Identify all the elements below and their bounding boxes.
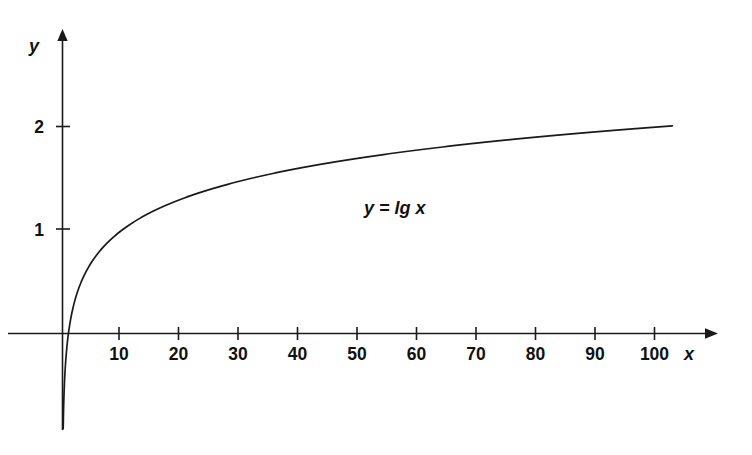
- x-axis-label: x: [683, 344, 695, 364]
- x-tick-label-100: 100: [640, 344, 669, 364]
- y-tick-label-2: 2: [34, 117, 44, 137]
- x-tick-label-90: 90: [585, 344, 605, 364]
- logarithm-graph: 10 20 30 40 50 60 70 80 90 100 1 2 y x y…: [0, 0, 752, 455]
- log-curve: [63, 126, 672, 429]
- x-axis-arrow-icon: [705, 328, 718, 338]
- x-tick-label-10: 10: [109, 344, 129, 364]
- y-axis-label: y: [28, 36, 40, 56]
- y-axis-arrow-icon: [57, 29, 67, 41]
- x-tick-label-20: 20: [169, 344, 189, 364]
- x-tick-label-70: 70: [466, 344, 486, 364]
- x-tick-label-30: 30: [228, 344, 248, 364]
- x-tick-label-60: 60: [407, 344, 427, 364]
- figure-canvas: 10 20 30 40 50 60 70 80 90 100 1 2 y x y…: [0, 0, 752, 455]
- curve-equation-label: y = lg x: [363, 198, 427, 218]
- y-tick-label-1: 1: [34, 220, 44, 240]
- x-tick-label-50: 50: [347, 344, 367, 364]
- x-tick-label-40: 40: [288, 344, 308, 364]
- x-tick-label-80: 80: [526, 344, 546, 364]
